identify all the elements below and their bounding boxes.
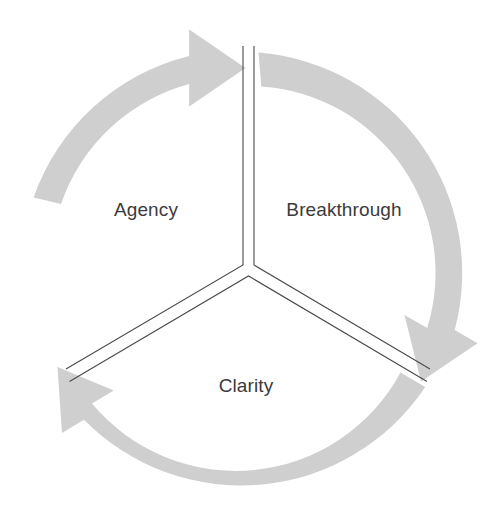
sector-label-agency: Agency (114, 200, 178, 219)
cycle-diagram-graphic (0, 0, 491, 515)
sector-label-clarity: Clarity (219, 376, 274, 395)
sector-divider-clarity (70, 276, 428, 382)
arrow-group (34, 30, 478, 486)
sector-label-breakthrough: Breakthrough (286, 200, 401, 219)
arrow-top (34, 30, 246, 204)
cycle-diagram: Agency Breakthrough Clarity (0, 0, 491, 515)
